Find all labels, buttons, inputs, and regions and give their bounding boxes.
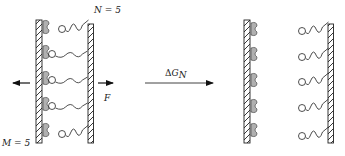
tether-icon [306, 22, 329, 34]
left-state: F N = 5 M = 5 [1, 5, 121, 148]
ligand-head-icon [299, 54, 306, 61]
diagram-canvas: F N = 5 M = 5 ΔGN [0, 0, 345, 156]
right-plate-a [244, 20, 250, 143]
receptor-icon [251, 47, 257, 60]
receptor-icon [251, 73, 257, 86]
receptor-icon [43, 20, 49, 33]
tether-icon [56, 51, 88, 57]
delta-g-label: ΔGN [165, 68, 188, 80]
receptor-group-left [43, 20, 49, 136]
ligand-head-icon [49, 77, 56, 84]
right-state [244, 20, 334, 143]
tether-icon [306, 48, 329, 60]
receptor-icon [43, 71, 49, 84]
receptor-icon [43, 45, 49, 58]
tether-icon [66, 20, 89, 32]
receptor-icon [43, 123, 49, 136]
ligand-head-icon [49, 51, 56, 58]
tether-icon [306, 99, 329, 111]
label-n: N = 5 [93, 5, 121, 15]
transition: ΔGN [145, 68, 213, 83]
ligand-head-icon [59, 131, 66, 138]
tether-icon [306, 73, 329, 85]
ligand-head-icon [299, 105, 306, 112]
ligand-head-icon [299, 28, 306, 35]
ligand-head-icon [299, 133, 306, 140]
receptor-group-right [251, 22, 257, 136]
ligand-head-icon [299, 79, 306, 86]
receptor-icon [43, 97, 49, 110]
force-label: F [103, 93, 111, 103]
receptor-icon [251, 99, 257, 112]
tether-icon [66, 125, 89, 137]
left-plate-a [36, 20, 42, 143]
ligand-group-right [299, 22, 329, 140]
ligand-head-icon [49, 103, 56, 110]
left-plate-b [88, 24, 94, 143]
right-plate-b [328, 24, 334, 143]
tether-icon [56, 103, 88, 109]
tether-icon [306, 127, 329, 139]
receptor-icon [251, 22, 257, 35]
receptor-icon [251, 123, 257, 136]
ligand-head-icon [59, 26, 66, 33]
label-m: M = 5 [1, 138, 30, 148]
ligand-group-left [49, 20, 89, 138]
tether-icon [56, 77, 88, 83]
